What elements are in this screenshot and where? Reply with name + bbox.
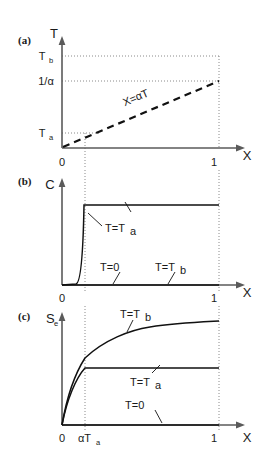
panel-b-label-t0: T=0 (100, 261, 119, 273)
panel-c-label-tb-sub: b (145, 311, 151, 323)
panel-a-ytick-inv-alpha: 1/α (38, 75, 54, 87)
panel-b-xtick-origin: 0 (59, 292, 65, 304)
panel-a-y-axis-label: T (50, 26, 58, 41)
panel-a-tag: (a) (18, 34, 31, 47)
panel-c-y-axis-label-sub: e (54, 319, 58, 328)
panel-a-xtick-one: 1 (211, 156, 217, 168)
panel-c-xtick-alpha-ta-sub: a (96, 438, 101, 447)
ytick-tb-sub: b (49, 56, 53, 65)
panel-b-tag: (b) (18, 175, 32, 188)
panel-a-ytick-tb: T b (39, 50, 53, 65)
leader-c-ta (152, 365, 160, 373)
leader-b-t0 (113, 272, 120, 284)
panel-c-label-tb: T=T b (120, 308, 151, 323)
panel-a: (a) X=αT T X T b 1/α (18, 26, 252, 168)
panel-b-label-tb: T=T b (155, 261, 186, 276)
panel-c-label-ta-sub: a (155, 379, 162, 391)
leader-b-ta-up (125, 202, 131, 212)
panel-c-label-tb-text: T=T (120, 308, 140, 320)
leader-c-tb (127, 320, 133, 332)
panel-c: (c) T=T b T=T (18, 306, 252, 447)
panel-b-y-axis-arrow (59, 178, 66, 187)
panel-a-y-axis-arrow (59, 36, 66, 45)
panel-c-xtick-one: 1 (211, 432, 217, 444)
panel-b-x-axis-label: X (243, 285, 252, 300)
leader-c-t0 (155, 410, 162, 423)
ytick-ta-sub: a (49, 133, 54, 142)
ytick-tb-text: T (39, 50, 46, 62)
panel-c-tag: (c) (18, 310, 31, 323)
leader-b-ta (88, 213, 102, 226)
panel-c-label-t0: T=0 (125, 399, 144, 411)
panel-c-xtick-origin: 0 (59, 432, 65, 444)
panel-a-xtick-origin: 0 (59, 156, 65, 168)
panel-c-x-axis-arrow (236, 422, 245, 429)
panel-c-label-ta-text: T=T (130, 376, 150, 388)
panel-c-label-ta: T=T a (130, 376, 162, 391)
panel-c-x-axis-label: X (243, 430, 252, 445)
panel-b-label-ta: T=T a (105, 222, 137, 237)
figure-canvas: (a) X=αT T X T b 1/α (0, 0, 259, 461)
leader-b-tb (168, 272, 175, 284)
panel-b-y-axis-label: C (45, 177, 54, 192)
panel-b-label-tb-sub: b (180, 264, 186, 276)
panel-a-ytick-ta: T a (39, 127, 54, 142)
curve-b-t-equals-ta (62, 205, 219, 285)
ytick-ta-text: T (39, 127, 46, 139)
panel-b-label-tb-text: T=T (155, 261, 175, 273)
panel-b-xtick-one: 1 (211, 292, 217, 304)
panel-a-x-axis-label: X (243, 148, 252, 163)
panel-b-label-ta-sub: a (130, 225, 137, 237)
panel-b-label-ta-text: T=T (105, 222, 125, 234)
line-label-group: X=αT (121, 86, 151, 108)
label-x-equals-alpha-t: X=αT (121, 86, 151, 108)
panel-c-xtick-alpha-ta-text: αT (78, 432, 91, 444)
panel-c-y-axis-label-group: S e (46, 311, 58, 328)
panel-c-y-axis-arrow (59, 312, 66, 321)
figure-svg: (a) X=αT T X T b 1/α (0, 0, 259, 461)
panel-b: (b) T=T a T=0 T=T (18, 170, 252, 304)
panel-c-xtick-alpha-ta: αT a (78, 432, 101, 447)
